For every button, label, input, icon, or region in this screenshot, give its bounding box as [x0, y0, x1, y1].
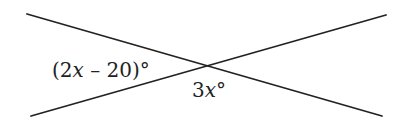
bottom-angle-coefficient: 3: [192, 78, 205, 102]
bottom-angle-variable: x: [205, 78, 216, 102]
left-angle-open-paren: (: [52, 58, 60, 82]
left-angle-degree: °: [140, 58, 150, 82]
left-angle-rest: – 20): [84, 58, 140, 82]
bottom-angle-degree: °: [216, 78, 226, 102]
left-angle-coefficient: 2: [60, 58, 73, 82]
intersecting-lines-diagram: (2x – 20)° 3x°: [0, 0, 405, 125]
left-angle-variable: x: [73, 58, 84, 82]
left-angle-label: (2x – 20)°: [52, 58, 150, 82]
bottom-angle-label: 3x°: [192, 78, 226, 102]
